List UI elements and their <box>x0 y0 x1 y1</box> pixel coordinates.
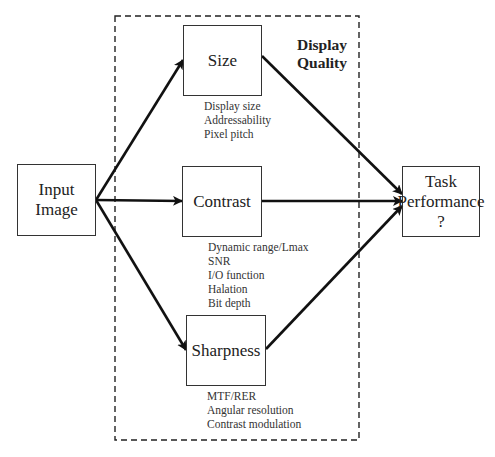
contrast-attribute: I/O function <box>208 268 309 282</box>
sharpness-label: Sharpness <box>192 341 261 361</box>
sharpness-attribute: MTF/RER <box>207 389 301 403</box>
contrast-node: Contrast <box>182 166 262 237</box>
contrast-label: Contrast <box>193 192 251 212</box>
contrast-attribute: Halation <box>208 282 309 296</box>
task-performance-label: Task Performance ? <box>398 172 485 232</box>
sharpness-attributes: MTF/RER Angular resolution Contrast modu… <box>207 389 301 431</box>
input-image-node: Input Image <box>17 164 96 236</box>
display-quality-title-line2: Quality <box>297 54 347 72</box>
arrow-size-to-output <box>262 56 402 194</box>
arrow-input-to-size <box>96 60 183 200</box>
display-quality-title-line1: Display <box>297 36 347 54</box>
arrow-input-to-sharpness <box>96 200 186 350</box>
input-image-label: Input Image <box>35 180 77 220</box>
arrow-input-to-contrast <box>96 200 182 201</box>
size-attribute: Pixel pitch <box>204 127 271 141</box>
size-label: Size <box>208 51 237 71</box>
contrast-attribute: Bit depth <box>208 296 309 310</box>
sharpness-node: Sharpness <box>186 315 266 386</box>
task-performance-node: Task Performance ? <box>402 166 480 237</box>
size-node: Size <box>183 25 262 96</box>
contrast-attribute: Dynamic range/Lmax <box>208 240 309 254</box>
contrast-attributes: Dynamic range/Lmax SNR I/O function Hala… <box>208 240 309 310</box>
sharpness-attribute: Contrast modulation <box>207 417 301 431</box>
size-attributes: Display size Addressability Pixel pitch <box>204 99 271 141</box>
size-attribute: Display size <box>204 99 271 113</box>
display-quality-title: Display Quality <box>297 36 347 72</box>
size-attribute: Addressability <box>204 113 271 127</box>
sharpness-attribute: Angular resolution <box>207 403 301 417</box>
contrast-attribute: SNR <box>208 254 309 268</box>
